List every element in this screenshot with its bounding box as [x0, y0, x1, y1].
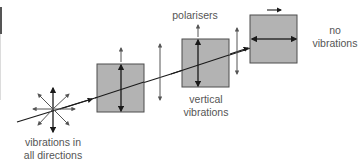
label-none-line1: no [308, 24, 362, 37]
label-no-vibrations: no vibrations [308, 24, 362, 50]
polariser-1 [95, 48, 144, 112]
label-none-line2: vibrations [308, 37, 362, 50]
label-unpolarised-line2: all directions [22, 149, 84, 162]
label-unpolarised-line1: vibrations in [22, 136, 84, 149]
polariser-2 [171, 25, 229, 87]
label-vertical-line2: vibrations [176, 106, 236, 119]
label-vertical-line1: vertical [176, 93, 236, 106]
unpolarised-star-icon [33, 88, 75, 132]
label-polarisers: polarisers [170, 9, 220, 22]
polariser-3 [250, 10, 297, 63]
label-vertical-vibrations: vertical vibrations [176, 93, 236, 119]
label-unpolarised: vibrations in all directions [22, 136, 84, 162]
